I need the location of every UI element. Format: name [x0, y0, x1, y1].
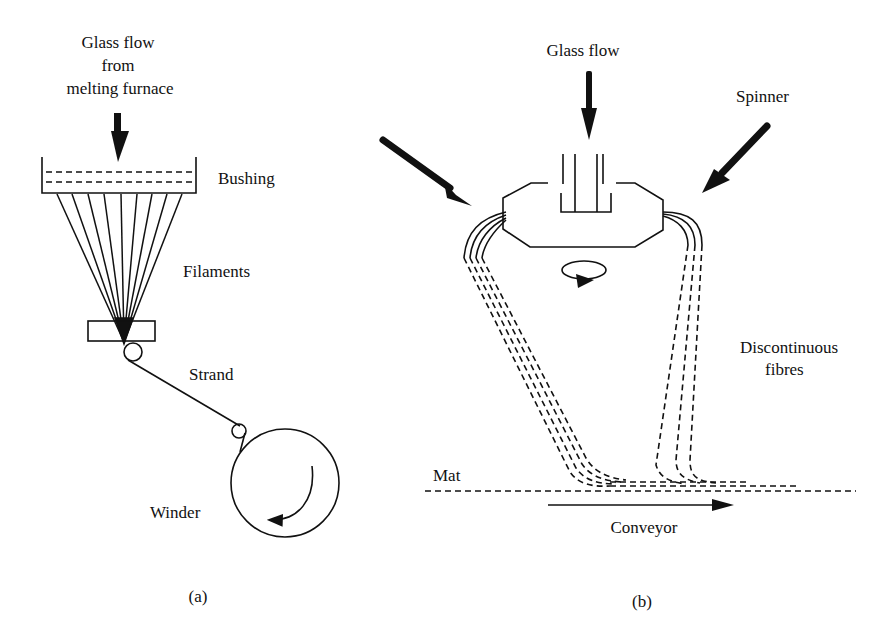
- bushing: [42, 157, 196, 193]
- caption-b: (b): [632, 592, 652, 611]
- label-spinner: Spinner: [736, 87, 789, 106]
- conveyor-arrowhead-icon: [712, 499, 734, 511]
- glass-flow-arrow-b: [581, 71, 597, 140]
- diagram-canvas: Glass flow from melting furnace Bushing: [0, 0, 891, 642]
- label-glass-flow-a-3: melting furnace: [66, 79, 173, 98]
- spinner-body: [503, 154, 663, 247]
- caption-a: (a): [189, 587, 208, 606]
- label-filaments: Filaments: [183, 262, 250, 281]
- label-glass-flow-b: Glass flow: [546, 41, 620, 60]
- spin-rotation-icon: [562, 261, 606, 288]
- spinner-arrow-left: [383, 140, 472, 206]
- glass-flow-arrow-a: [111, 113, 129, 162]
- label-winder: Winder: [150, 503, 201, 522]
- figure: Glass flow from melting furnace Bushing: [0, 0, 891, 642]
- label-glass-flow-a-1: Glass flow: [81, 33, 155, 52]
- fibres-left: [464, 212, 626, 486]
- winder-drum: [231, 429, 339, 537]
- mat-layers: [425, 482, 856, 491]
- label-bushing: Bushing: [218, 169, 275, 188]
- panel-b: Glass flow Spinner: [383, 41, 856, 611]
- label-strand: Strand: [189, 365, 234, 384]
- rotation-arrow-icon: [270, 466, 313, 520]
- label-glass-flow-a-2: from: [101, 56, 134, 75]
- guide-roller: [124, 343, 142, 361]
- label-conveyor: Conveyor: [610, 518, 677, 537]
- spinner-arrow-right: [702, 126, 767, 193]
- fibres-right: [656, 212, 716, 484]
- panel-a: Glass flow from melting furnace Bushing: [42, 33, 339, 606]
- label-discontinuous: Discontinuous: [740, 338, 838, 357]
- label-fibres: fibres: [765, 360, 804, 379]
- label-mat: Mat: [433, 466, 461, 485]
